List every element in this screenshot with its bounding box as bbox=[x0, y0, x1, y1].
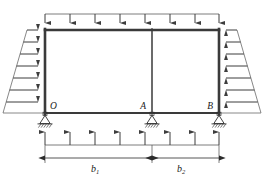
left-load-envelope bbox=[3, 30, 27, 113]
right-load-arrows bbox=[226, 30, 258, 102]
right-trapezoidal-load bbox=[219, 30, 261, 113]
right-load-envelope bbox=[237, 30, 261, 113]
left-load-arrows bbox=[6, 30, 38, 102]
support-triangle bbox=[40, 115, 50, 123]
top-load-arrows bbox=[45, 14, 219, 23]
structural-frame-diagram: O A B b1 b2 bbox=[0, 0, 264, 176]
node-label-A: A bbox=[139, 101, 146, 111]
dim-label-b2: b2 bbox=[177, 163, 186, 175]
left-trapezoidal-load bbox=[3, 30, 45, 113]
bottom-load-arrows bbox=[45, 132, 219, 145]
support-triangle bbox=[214, 115, 224, 123]
support-triangle bbox=[147, 115, 157, 123]
node-label-B: B bbox=[207, 101, 213, 111]
node-label-O: O bbox=[50, 101, 57, 111]
support-hatching bbox=[38, 124, 51, 128]
dim-label-b1: b1 bbox=[91, 163, 99, 175]
bottom-uniform-load bbox=[45, 132, 219, 145]
support-hatching bbox=[145, 124, 158, 128]
top-uniform-load bbox=[45, 14, 219, 23]
figure-root: O A B b1 b2 bbox=[0, 0, 264, 176]
support-hatching bbox=[212, 124, 225, 128]
frame-members bbox=[45, 29, 219, 114]
dim-label-b1-subscript: 1 bbox=[96, 168, 99, 175]
dim-label-b2-subscript: 2 bbox=[182, 168, 186, 175]
dimension-lines bbox=[45, 145, 219, 163]
